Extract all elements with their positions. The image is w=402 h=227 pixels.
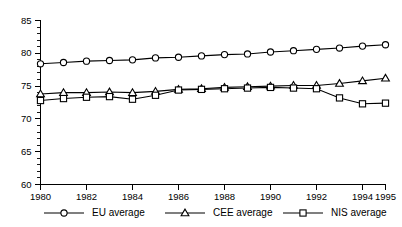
circle-marker (175, 54, 181, 60)
x-tick-label: 1980 (30, 191, 51, 202)
legend-label: NIS average (331, 207, 387, 218)
square-marker (267, 84, 273, 90)
circle-marker (267, 49, 273, 55)
x-tick-label: 1992 (306, 191, 327, 202)
x-tick-label: 1988 (214, 191, 235, 202)
square-marker (37, 97, 43, 103)
square-marker (60, 95, 66, 101)
circle-marker (106, 57, 112, 63)
square-marker (221, 86, 227, 92)
circle-marker (221, 52, 227, 58)
circle-marker (198, 53, 204, 59)
square-marker (244, 85, 250, 91)
square-marker (382, 100, 388, 106)
x-tick-label: 1986 (168, 191, 189, 202)
circle-marker (359, 43, 365, 49)
circle-marker (336, 45, 342, 51)
x-axis: 198019821984198619881990199219941995 (30, 185, 396, 202)
square-marker (290, 85, 296, 91)
y-tick-label: 85 (21, 15, 32, 26)
circle-marker (152, 55, 158, 61)
x-tick-label: 1982 (76, 191, 97, 202)
y-tick-label: 65 (21, 146, 32, 157)
square-marker (336, 95, 342, 101)
y-tick-label: 70 (21, 113, 32, 124)
legend-item: CEE average (165, 207, 273, 218)
series-line (41, 45, 386, 64)
y-tick-label: 60 (21, 179, 32, 190)
series-group (37, 42, 390, 107)
chart-canvas: 606570758085 198019821984198619881990199… (0, 0, 402, 227)
circle-marker (313, 46, 319, 52)
square-marker (300, 210, 306, 216)
series-line (41, 78, 386, 94)
circle-marker (61, 210, 67, 216)
square-marker (313, 86, 319, 92)
legend-item: NIS average (283, 207, 387, 218)
circle-marker (290, 48, 296, 54)
line-chart: 606570758085 198019821984198619881990199… (0, 0, 402, 227)
circle-marker (37, 61, 43, 67)
legend-label: CEE average (213, 207, 273, 218)
circle-marker (129, 57, 135, 63)
triangle-marker (382, 74, 390, 81)
y-tick-label: 75 (21, 80, 32, 91)
square-marker (359, 101, 365, 107)
chart-legend: EU averageCEE averageNIS average (44, 207, 387, 218)
circle-marker (60, 59, 66, 65)
square-marker (198, 86, 204, 92)
series-circle (37, 42, 388, 67)
x-tick-label: 1990 (260, 191, 281, 202)
x-tick-label: 1995 (375, 191, 396, 202)
y-tick-label: 80 (21, 47, 32, 58)
square-marker (152, 92, 158, 98)
circle-marker (382, 42, 388, 48)
square-marker (106, 93, 112, 99)
square-marker (129, 96, 135, 102)
circle-marker (83, 58, 89, 64)
legend-label: EU average (92, 207, 145, 218)
circle-marker (244, 51, 250, 57)
x-tick-label: 1984 (122, 191, 143, 202)
square-marker (83, 94, 89, 100)
square-marker (175, 87, 181, 93)
legend-item: EU average (44, 207, 145, 218)
series-triangle (37, 74, 390, 96)
x-tick-label: 1994 (352, 191, 373, 202)
series-line (41, 87, 386, 103)
